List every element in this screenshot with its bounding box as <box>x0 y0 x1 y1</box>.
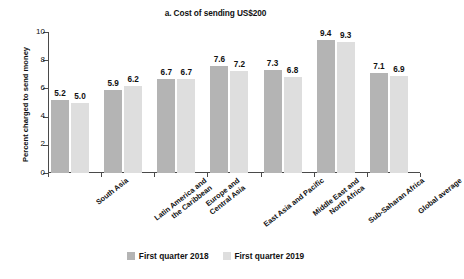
bar: 7.1 <box>370 73 388 173</box>
x-tick-label: South Asia <box>94 176 130 207</box>
bar-value-label: 5.9 <box>107 79 118 88</box>
bar: 5.9 <box>104 90 122 173</box>
bar-value-label: 9.3 <box>340 31 351 40</box>
bar-group: 5.25.0 <box>48 32 101 173</box>
y-tick-label: 10 <box>36 27 45 36</box>
bar-value-label: 7.6 <box>214 55 225 64</box>
legend-label: First quarter 2019 <box>235 251 305 261</box>
bar-value-label: 6.7 <box>181 68 192 77</box>
bar-value-label: 7.3 <box>267 59 278 68</box>
chart-legend: First quarter 2018First quarter 2019 <box>0 251 431 261</box>
chart-title: a. Cost of sending US$200 <box>0 8 431 18</box>
bar: 7.2 <box>230 71 248 173</box>
bar-group: 7.16.9 <box>367 32 420 173</box>
y-axis-title: Percent charged to send money <box>21 25 30 185</box>
legend-item[interactable]: First quarter 2018 <box>127 251 209 261</box>
bar-value-label: 6.8 <box>287 66 298 75</box>
plot-area: 0246810 5.25.05.96.26.76.77.67.27.36.89.… <box>48 32 420 173</box>
bar: 6.8 <box>284 77 302 173</box>
bar: 9.4 <box>317 40 335 173</box>
bar: 6.7 <box>157 79 175 173</box>
bar-value-label: 6.7 <box>161 68 172 77</box>
bar-value-label: 9.4 <box>320 29 331 38</box>
bar-group: 7.67.2 <box>207 32 260 173</box>
y-tick-label: 8 <box>41 55 45 64</box>
bar-group: 5.96.2 <box>101 32 154 173</box>
bar-value-label: 6.2 <box>127 75 138 84</box>
bar: 6.2 <box>124 86 142 173</box>
bar: 6.7 <box>177 79 195 173</box>
bar: 7.3 <box>264 70 282 173</box>
bar: 5.2 <box>51 100 69 173</box>
bar-value-label: 7.2 <box>234 60 245 69</box>
x-tick-label: Europe andCentral Asia <box>202 176 247 217</box>
bar-value-label: 5.2 <box>54 89 65 98</box>
legend-item[interactable]: First quarter 2019 <box>223 251 305 261</box>
legend-label: First quarter 2018 <box>139 251 209 261</box>
bar: 9.3 <box>337 42 355 173</box>
legend-swatch-icon <box>127 252 135 260</box>
x-tick-label: Sub-Saharan Africa <box>366 176 426 225</box>
bar: 6.9 <box>390 76 408 173</box>
bar: 5.0 <box>71 103 89 174</box>
legend-swatch-icon <box>223 252 231 260</box>
x-axis-labels: South AsiaLatin America andthe Caribbean… <box>48 176 420 246</box>
bar-group: 9.49.3 <box>314 32 367 173</box>
bar: 7.6 <box>210 66 228 173</box>
y-tick-label: 0 <box>41 168 45 177</box>
bar-group: 6.76.7 <box>154 32 207 173</box>
bar-value-label: 5.0 <box>74 92 85 101</box>
y-tick-label: 6 <box>41 83 45 92</box>
bar-value-label: 6.9 <box>393 65 404 74</box>
y-tick-label: 4 <box>41 111 45 120</box>
y-tick-label: 2 <box>41 139 45 148</box>
x-tick-label: East Asia and Pacific <box>262 176 326 229</box>
bar-group: 7.36.8 <box>261 32 314 173</box>
bar-value-label: 7.1 <box>373 62 384 71</box>
